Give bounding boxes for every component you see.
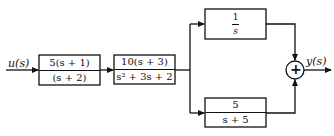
g2-denominator: s² + 3s + 2 (114, 72, 174, 82)
g4-numerator: 5 (230, 100, 240, 110)
block-g4: 5 s + 5 (205, 98, 266, 127)
g1-denominator: (s + 2) (50, 73, 88, 83)
g1-numerator: 5(s + 1) (47, 58, 91, 68)
g4-denominator: s + 5 (220, 115, 250, 125)
g4-to-sum-arrow (266, 80, 295, 113)
plus-sign: + (290, 62, 302, 76)
block-g3: 1 s (205, 9, 266, 39)
fraction-bar (232, 24, 239, 25)
g2-numerator: 10(s + 3) (119, 57, 170, 67)
g3-numerator: 1 (231, 13, 241, 22)
g3-to-sum-arrow (266, 24, 295, 60)
output-label: y(s) (306, 56, 326, 67)
fraction-bar (39, 70, 100, 71)
block-g2: 10(s + 3) s² + 3s + 2 (114, 55, 175, 84)
fraction-bar (114, 69, 175, 70)
fraction-bar (205, 112, 266, 113)
g3-denominator: s (231, 27, 240, 36)
input-label: u(s) (8, 58, 29, 69)
block-g1: 5(s + 1) (s + 2) (39, 55, 100, 85)
